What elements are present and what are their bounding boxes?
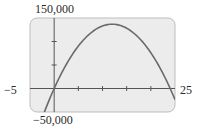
- graph-window: [0, 0, 198, 129]
